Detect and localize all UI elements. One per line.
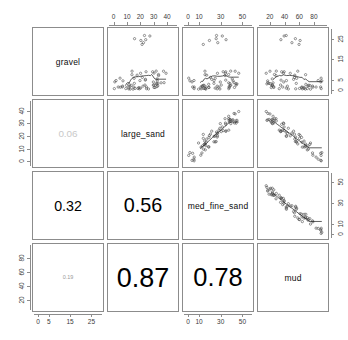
axis-tick (140, 22, 141, 25)
axis-tick-label: 80 (18, 254, 25, 261)
axis-tick (154, 22, 155, 25)
axis-tick (199, 22, 200, 25)
axis-tick-label: 10 (337, 220, 344, 227)
scatter-plot (108, 28, 178, 95)
axis-tick (331, 182, 334, 183)
scatter-panel-med_fine_sand-vs-mud (257, 171, 329, 240)
axis-tick-label: 0 (337, 88, 344, 92)
axis-line (30, 101, 31, 166)
scatter-panel-large_sand-vs-mud (257, 99, 329, 168)
correlation-panel-mud-med_fine_sand: 0.78 (182, 243, 254, 312)
axis-tick (127, 22, 128, 25)
axis-tick (38, 314, 39, 317)
correlation-panel-med_fine_sand-gravel: 0.32 (32, 171, 104, 240)
axis-tick (27, 123, 30, 124)
axis-tick-label: 25 (337, 36, 344, 43)
axis-tick-label: 25 (88, 318, 95, 325)
axis-tick-label: 50 (239, 13, 246, 20)
axis-tick-label: 20 (266, 13, 273, 20)
correlation-value: 0.06 (33, 129, 103, 139)
diagonal-panel-med_fine_sand: med_fine_sand (182, 171, 254, 240)
axis-tick-label: 40 (18, 107, 25, 114)
axis-tick (49, 314, 50, 317)
variable-label: large_sand (108, 129, 178, 139)
axis-tick-label: 40 (163, 13, 170, 20)
axis-tick-label: 40 (18, 282, 25, 289)
axis-tick-label: 0 (186, 13, 190, 20)
axis-tick-label: 30 (337, 199, 344, 206)
axis-tick-label: 10 (123, 13, 130, 20)
axis-tick-label: 30 (18, 120, 25, 127)
diagonal-panel-large_sand: large_sand (107, 99, 179, 168)
scatter-plot (258, 172, 328, 239)
scatter-panel-gravel-vs-mud (257, 27, 329, 96)
scatter-plot (258, 28, 328, 95)
correlation-panel-large_sand-gravel: 0.06 (32, 99, 104, 168)
axis-tick (221, 22, 222, 25)
axis-tick-label: 50 (239, 318, 246, 325)
scatter-panel-large_sand-vs-med_fine_sand (182, 99, 254, 168)
axis-tick-label: 40 (281, 13, 288, 20)
axis-tick (188, 314, 189, 317)
axis-tick-label: 5 (337, 78, 344, 82)
axis-tick (285, 22, 286, 25)
scatter-plot (258, 100, 328, 167)
axis-tick (331, 234, 334, 235)
axis-tick-label: 0 (18, 160, 25, 164)
axis-tick (331, 90, 334, 91)
correlation-value: 0.78 (183, 265, 253, 290)
axis-tick-label: 5 (47, 318, 51, 325)
diagonal-panel-gravel: gravel (32, 27, 104, 96)
axis-tick-label: 30 (217, 318, 224, 325)
variable-label: gravel (33, 57, 103, 67)
axis-tick-label: 20 (18, 296, 25, 303)
axis-tick (27, 149, 30, 150)
axis-tick (27, 111, 30, 112)
axis-line (109, 25, 177, 26)
axis-tick (114, 22, 115, 25)
axis-tick (331, 39, 334, 40)
axis-tick-label: 0 (337, 232, 344, 236)
axis-tick-label: 60 (18, 268, 25, 275)
axis-tick-label: 30 (217, 13, 224, 20)
axis-tick-label: 0 (36, 318, 40, 325)
scatter-panel-gravel-vs-med_fine_sand (182, 27, 254, 96)
diagonal-panel-mud: mud (257, 243, 329, 312)
axis-line (184, 25, 252, 26)
lowess-smoother (273, 121, 321, 147)
variable-label: mud (258, 273, 328, 283)
correlation-value: 0.56 (108, 196, 178, 216)
axis-tick (331, 59, 334, 60)
variable-label: med_fine_sand (183, 201, 253, 211)
scatter-plot (183, 100, 253, 167)
axis-tick (27, 161, 30, 162)
axis-tick (27, 136, 30, 137)
axis-tick-label: 60 (296, 13, 303, 20)
axis-tick-label: 10 (195, 13, 202, 20)
axis-tick (27, 258, 30, 259)
correlation-panel-med_fine_sand-large_sand: 0.56 (107, 171, 179, 240)
axis-tick (91, 314, 92, 317)
axis-tick (314, 22, 315, 25)
axis-tick (27, 300, 30, 301)
axis-tick-label: 10 (195, 318, 202, 325)
axis-line (259, 25, 327, 26)
axis-tick (199, 314, 200, 317)
axis-tick (331, 224, 334, 225)
axis-tick-label: 0 (112, 13, 116, 20)
correlation-value: 0.87 (108, 264, 178, 291)
correlation-value: 0.19 (33, 275, 103, 281)
axis-tick (188, 22, 189, 25)
axis-tick (299, 22, 300, 25)
axis-tick (270, 22, 271, 25)
axis-tick (242, 22, 243, 25)
axis-tick-label: 15 (67, 318, 74, 325)
correlation-panel-mud-large_sand: 0.87 (107, 243, 179, 312)
axis-tick (331, 203, 334, 204)
axis-tick-label: 15 (337, 56, 344, 63)
axis-tick-label: 20 (137, 13, 144, 20)
axis-tick (331, 80, 334, 81)
axis-tick (70, 314, 71, 317)
axis-tick-label: 20 (18, 132, 25, 139)
axis-tick (167, 22, 168, 25)
